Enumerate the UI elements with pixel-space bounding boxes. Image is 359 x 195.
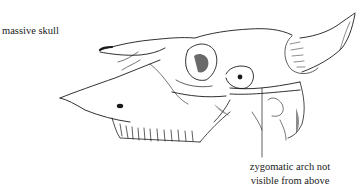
- foramen: [117, 104, 123, 108]
- horn-base: [285, 36, 318, 74]
- label-zygomatic-arch: zygomatic arch not visible from above: [229, 160, 351, 188]
- label-zygomatic-arch-line2: visible from above: [229, 174, 351, 188]
- snout: [60, 52, 160, 122]
- sutures: [150, 64, 230, 122]
- orbit: [176, 44, 217, 87]
- label-massive-skull: massive skull: [2, 26, 59, 37]
- teeth: [112, 112, 230, 142]
- horn: [300, 13, 355, 72]
- temporal-region: [172, 66, 300, 97]
- cranium-outline: [100, 29, 292, 56]
- label-zygomatic-arch-line1: zygomatic arch not: [229, 160, 351, 174]
